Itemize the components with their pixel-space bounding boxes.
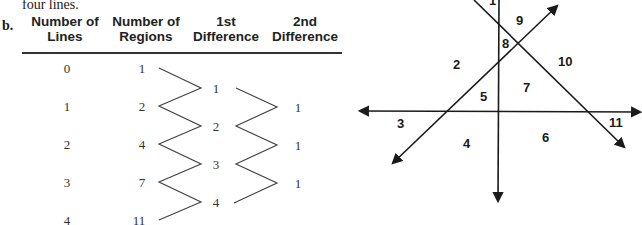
- region-label-2: 2: [453, 57, 460, 72]
- zigzag-regions-to-first-diff: [159, 68, 201, 220]
- region-label-6: 6: [542, 130, 549, 145]
- ascending-diagonal: [393, 6, 557, 163]
- region-label-5: 5: [480, 89, 487, 104]
- region-label-10: 10: [558, 54, 572, 69]
- region-label-9: 9: [516, 13, 523, 28]
- region-label-1: 1: [489, 0, 496, 8]
- horizontal-line: [360, 111, 640, 112]
- four-lines-figure: [360, 0, 640, 201]
- diagram-canvas: [0, 0, 642, 225]
- region-label-11: 11: [609, 115, 623, 130]
- region-label-8: 8: [502, 36, 509, 51]
- region-label-4: 4: [463, 136, 470, 151]
- vertical-line: [498, 0, 499, 201]
- zigzag-first-to-second-diff: [234, 88, 277, 203]
- region-label-7: 7: [523, 80, 530, 95]
- descending-diagonal: [474, 0, 624, 147]
- region-label-3: 3: [397, 116, 404, 131]
